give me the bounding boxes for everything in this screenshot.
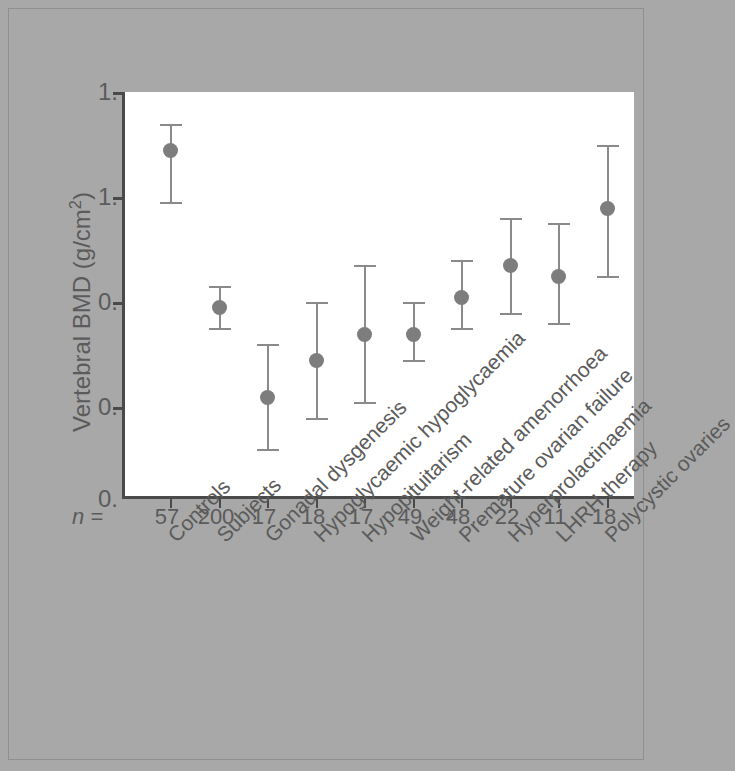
y-axis-tick	[113, 92, 125, 95]
error-bar-cap-lower	[160, 202, 182, 204]
error-bar-cap-upper	[306, 302, 328, 304]
data-point-marker	[406, 327, 421, 342]
error-bar-cap-upper	[354, 265, 376, 267]
error-bar-cap-upper	[451, 260, 473, 262]
data-point-marker	[260, 390, 275, 405]
data-point-marker	[309, 353, 324, 368]
error-bar-cap-upper	[548, 223, 570, 225]
error-bar-cap-upper	[403, 302, 425, 304]
y-axis-tick-labels: 1.1.0.0.0.	[9, 9, 122, 509]
data-point-marker	[163, 143, 178, 158]
data-point-marker	[212, 300, 227, 315]
error-bar-cap-upper	[257, 344, 279, 346]
error-bar-cap-lower	[306, 418, 328, 420]
data-point-marker	[357, 327, 372, 342]
error-bar-cap-lower	[500, 313, 522, 315]
error-bar-cap-upper	[209, 286, 231, 288]
error-bar-cap-lower	[548, 323, 570, 325]
figure-frame: Vertebral BMD (g/cm2) 1.1.0.0.0. n = 572…	[8, 8, 644, 760]
x-axis-category-labels: ControlsSubjectsGonadal dysgenesisHypogl…	[9, 524, 668, 724]
data-point-marker	[503, 258, 518, 273]
data-point-marker	[600, 201, 615, 216]
data-point-marker	[454, 290, 469, 305]
error-bar-cap-upper	[500, 218, 522, 220]
error-bar-cap-lower	[597, 276, 619, 278]
error-bar-cap-upper	[597, 145, 619, 147]
y-axis-tick	[113, 197, 125, 200]
y-axis-tick	[113, 407, 125, 410]
error-bar	[170, 124, 172, 203]
error-bar-cap-upper	[160, 124, 182, 126]
error-bar-cap-lower	[257, 449, 279, 451]
error-bar-cap-lower	[403, 360, 425, 362]
data-point-marker	[551, 269, 566, 284]
error-bar-cap-lower	[451, 328, 473, 330]
error-bar-cap-lower	[354, 402, 376, 404]
y-axis-tick	[113, 302, 125, 305]
error-bar-cap-lower	[209, 328, 231, 330]
